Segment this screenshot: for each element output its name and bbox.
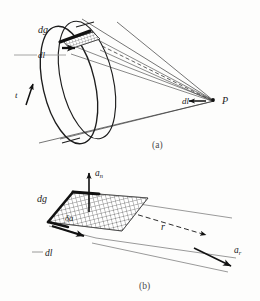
physics-diagram-svg: dg dl t dl P (a)	[0, 0, 260, 301]
label-dg-a: dg	[38, 24, 48, 35]
caption-b: (b)	[139, 281, 150, 292]
figure-container: dg dl t dl P (a)	[0, 0, 260, 301]
label-dl-point: dl	[182, 96, 190, 106]
label-dg-b: dg	[37, 193, 47, 204]
label-dl-ring: dl	[38, 50, 46, 60]
label-point-p: P	[221, 95, 228, 106]
point-p-marker	[211, 98, 215, 102]
label-r-vector: r	[161, 221, 165, 232]
label-dl-b: dl	[45, 248, 53, 258]
label-delta-a: δa	[65, 213, 73, 223]
caption-a: (a)	[152, 140, 163, 151]
